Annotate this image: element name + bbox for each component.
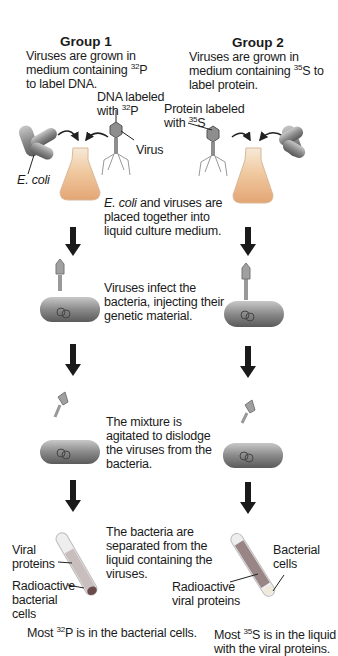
flask-1-icon bbox=[60, 148, 100, 200]
bacterium-2-icon bbox=[223, 443, 283, 468]
tube2-top-label: Bacterial cells bbox=[273, 543, 320, 571]
arrow-down-icon bbox=[65, 344, 256, 378]
step2-text: Viruses infect the bacteria, injecting t… bbox=[104, 281, 224, 323]
virus-head-2-icon bbox=[242, 400, 255, 423]
virus-1-icon bbox=[102, 110, 130, 175]
step3-text: The mixture is agitated to dislodge the … bbox=[106, 415, 212, 471]
step4-text: The bacteria are separated from the liqu… bbox=[106, 525, 212, 581]
group2-result: Most 35S is in the liquid with the viral… bbox=[214, 628, 336, 656]
group2-title: Group 2 bbox=[232, 35, 284, 50]
ecoli-cluster-1-icon bbox=[17, 124, 59, 162]
group1-result: Most 32P is in the bacterial cells. bbox=[27, 626, 197, 640]
group2-intro: Viruses are grown in medium containing 3… bbox=[189, 50, 324, 92]
flask-2-icon bbox=[233, 148, 273, 203]
group1-title: Group 1 bbox=[60, 34, 112, 49]
tube2-bottom-label: Radioactive viral proteins bbox=[172, 580, 240, 608]
tube1-bottom-label: Radioactive bacterial cells bbox=[12, 579, 75, 621]
arrow-down-icon bbox=[65, 480, 256, 514]
bacterium-1-icon bbox=[40, 440, 100, 464]
tube1-top-label: Viral proteins bbox=[12, 543, 55, 571]
ecoli-cluster-2-icon bbox=[277, 124, 308, 161]
group1-intro: Viruses are grown in medium containing 3… bbox=[26, 49, 147, 91]
step1-text: E. coli and viruses are placed together … bbox=[104, 196, 222, 238]
ecoli-label: E. coli bbox=[17, 173, 50, 187]
bacterium-infected-1-icon bbox=[40, 259, 100, 322]
virus-2-icon bbox=[199, 126, 227, 176]
protein-label: Protein labeled with 35S bbox=[164, 102, 244, 130]
bacterium-infected-2-icon bbox=[224, 263, 284, 327]
virus-label: Virus bbox=[136, 143, 163, 157]
dna-label: DNA labeled with 32P bbox=[97, 90, 164, 118]
virus-head-1-icon bbox=[55, 392, 68, 417]
